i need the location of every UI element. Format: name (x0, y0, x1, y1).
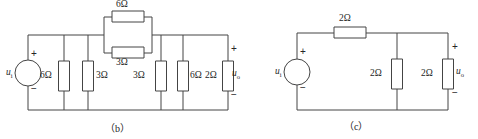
source-minus-sign-c: − (300, 83, 306, 93)
resistor-label-load-b: 2Ω (205, 71, 217, 81)
resistor-label-shunt-c: 2Ω (370, 69, 382, 79)
resistor-shunt-3ohm-a (83, 61, 94, 91)
resistor-label-series-c: 2Ω (339, 14, 351, 24)
source-plus-sign-b: + (31, 49, 37, 59)
resistor-shunt-6ohm-b (178, 61, 189, 91)
resistor-shunt-2ohm-c (392, 59, 403, 89)
resistor-top-upper-6ohm (112, 11, 144, 22)
resistor-label-top-lower-b: 3Ω (116, 58, 128, 68)
resistor-shunt-6ohm-a (59, 61, 70, 91)
circuit-b-schematic (0, 0, 239, 139)
output-minus-sign-c: − (452, 88, 458, 98)
source-minus-sign-b: − (31, 84, 37, 94)
panel-caption-b: （b） (105, 120, 130, 135)
source-label-b: ui (6, 68, 13, 79)
circuit-panel-b: ui + − 6Ω 3Ω 6Ω 3Ω 3Ω 6Ω 2Ω + uo − （b） (0, 0, 239, 139)
resistor-label-shunt-4-b: 6Ω (190, 71, 202, 81)
resistor-load-2ohm-c (443, 59, 454, 89)
output-plus-sign-b: + (231, 44, 237, 54)
source-label-c: ui (275, 67, 282, 78)
resistor-label-load-c: 2Ω (421, 69, 433, 79)
output-label-c: uo (456, 67, 464, 78)
resistor-label-shunt-2-b: 3Ω (96, 71, 108, 81)
voltage-source-symbol-c (284, 59, 310, 85)
resistor-series-2ohm-c (334, 27, 366, 38)
output-plus-sign-c: + (452, 42, 458, 52)
resistor-shunt-3ohm-b (156, 61, 167, 91)
resistor-label-shunt-1-b: 6Ω (40, 71, 52, 81)
circuit-panel-c: ui + − 2Ω 2Ω 2Ω + uo − （c） (239, 0, 478, 139)
circuit-figure: ui + − 6Ω 3Ω 6Ω 3Ω 3Ω 6Ω 2Ω + uo − （b） (0, 0, 478, 139)
panel-caption-c: （c） (344, 118, 368, 133)
resistor-label-top-upper-b: 6Ω (116, 0, 128, 10)
output-minus-sign-b: − (231, 90, 237, 100)
source-plus-sign-c: + (300, 47, 306, 57)
resistor-label-shunt-3-b: 3Ω (133, 71, 145, 81)
voltage-source-symbol (15, 60, 41, 86)
